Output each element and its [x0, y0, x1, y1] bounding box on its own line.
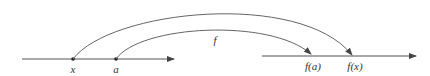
label-f: f [213, 35, 216, 46]
label-fx: f(x) [347, 61, 362, 72]
label-x: x [71, 64, 76, 75]
function-mapping-diagram: x a f f(a) f(x) [0, 0, 430, 76]
label-a: a [113, 64, 119, 75]
label-fa: f(a) [305, 61, 321, 72]
